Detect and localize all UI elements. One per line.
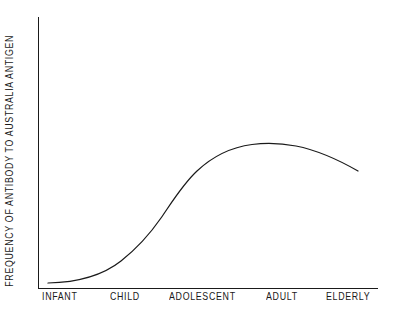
chart-plot-area [0, 0, 394, 322]
x-tick-label-infant: INFANT [42, 291, 78, 304]
chart-figure: FREQUENCY OF ANTIBODY TO AUSTRALIA ANTIG… [0, 0, 394, 322]
x-tick-label-child: CHILD [110, 291, 140, 304]
x-tick-label-elderly: ELDERLY [326, 291, 370, 304]
x-axis-tick-labels: INFANT CHILD ADOLESCENT ADULT ELDERLY [38, 291, 378, 305]
x-tick-label-adolescent: ADOLESCENT [169, 291, 236, 304]
x-tick-label-adult: ADULT [266, 291, 298, 304]
data-curve-antibody-frequency [48, 144, 358, 283]
